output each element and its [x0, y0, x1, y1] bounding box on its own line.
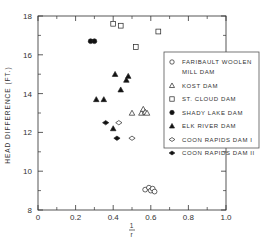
y-tick-label: 10: [23, 167, 32, 176]
data-point: [125, 73, 131, 78]
legend-marker: [170, 110, 174, 114]
legend: FARIBAULT WOOLENMILL DAMKOST DAMST. CLOU…: [164, 52, 259, 156]
data-points: [88, 21, 160, 194]
x-tick-label: 0.8: [183, 213, 195, 222]
y-tick-label: 12: [23, 128, 32, 137]
data-point: [101, 97, 107, 102]
x-axis-label-denominator: r: [130, 231, 133, 238]
legend-label: KOST DAM: [182, 83, 218, 89]
data-point: [118, 87, 124, 92]
data-point: [156, 29, 161, 34]
legend-item: COON RAPIDS DAM II: [169, 150, 255, 156]
legend-label: SHADY LAKE DAM: [182, 110, 243, 116]
data-point: [94, 97, 100, 102]
x-axis-label-numerator: 1: [130, 222, 135, 229]
x-tick-label: 0: [36, 213, 41, 222]
data-point: [116, 121, 122, 125]
y-tick-label: 16: [23, 51, 32, 60]
legend-label: FARIBAULT WOOLEN: [182, 59, 252, 65]
y-axis-label: HEAD DIFFERENCE (FT.): [4, 66, 12, 164]
data-point: [133, 45, 138, 50]
data-point: [111, 21, 116, 26]
x-tick-label: 0.6: [145, 213, 157, 222]
y-tick-label: 18: [23, 12, 32, 21]
data-point: [152, 189, 157, 194]
legend-marker: [169, 151, 175, 155]
legend-label: ELK RIVER DAM: [182, 123, 236, 129]
y-tick-label: 14: [23, 90, 32, 99]
legend-marker: [170, 60, 174, 64]
data-point: [129, 110, 135, 115]
data-point: [103, 121, 109, 125]
legend-label: ST. CLOUD DAM: [182, 96, 236, 102]
series-faribault-woolen-mill-dam: [143, 185, 157, 194]
data-point: [118, 23, 123, 28]
data-point: [110, 126, 116, 131]
legend-item: COON RAPIDS DAM I: [169, 137, 252, 143]
data-point: [112, 71, 118, 76]
series-shady-lake-dam: [88, 39, 97, 44]
data-point: [114, 136, 120, 140]
series-kost-dam: [129, 106, 150, 115]
data-point: [92, 39, 97, 44]
legend-marker: [170, 97, 174, 101]
series-st-cloud-dam: [111, 21, 161, 49]
x-tick-label: 0.4: [108, 213, 120, 222]
x-tick-label: 1.0: [220, 213, 232, 222]
legend-label: MILL DAM: [182, 69, 215, 75]
legend-label: COON RAPIDS DAM II: [182, 150, 255, 156]
series-elk-river-dam: [94, 71, 131, 130]
x-tick-label: 0.2: [70, 213, 82, 222]
scatter-chart: 00.20.40.60.81.0 81012141618 1 r HEAD DI…: [0, 0, 270, 252]
y-tick-label: 8: [28, 206, 33, 215]
data-point: [129, 136, 135, 140]
legend-label: COON RAPIDS DAM I: [182, 137, 253, 143]
